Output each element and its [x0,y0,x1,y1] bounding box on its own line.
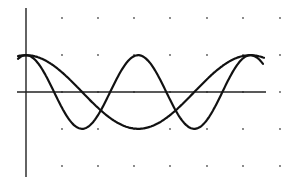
grid-dot [242,17,244,19]
grid-dot [279,54,281,56]
grid-dot [206,17,208,19]
grid-dot [279,91,281,93]
grid-dot [242,128,244,130]
grid-dot [279,17,281,19]
grid-dot [97,17,99,19]
grid-dot [61,17,63,19]
grid-dot [206,128,208,130]
grid-dot [61,165,63,167]
grid-dot [133,17,135,19]
grid-dot [242,165,244,167]
line-plot [0,0,294,186]
grid-dot [169,17,171,19]
grid-dot [97,165,99,167]
grid-dot [206,165,208,167]
chart-area [0,0,294,186]
grid-dot [169,165,171,167]
grid-dot [133,165,135,167]
grid-dot [61,54,63,56]
grid-dot [97,128,99,130]
grid-dot [279,165,281,167]
grid-dot [206,54,208,56]
grid-dot [97,54,99,56]
grid-dot [61,128,63,130]
grid-dot [279,128,281,130]
grid-dot [169,128,171,130]
grid-dot [169,54,171,56]
